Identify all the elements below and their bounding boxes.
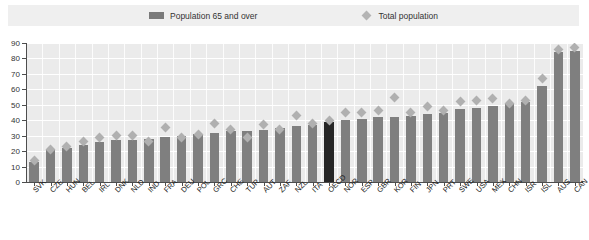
x-axis-labels: SVKCZEHUNBELIRLDNKNLDINDFRADEUPOLGRCCHET… — [0, 186, 587, 240]
bar — [308, 125, 318, 182]
bar — [455, 109, 465, 182]
y-tick — [22, 120, 26, 121]
y-tick-label: 20 — [11, 147, 20, 156]
bar — [390, 117, 400, 182]
y-tick — [22, 74, 26, 75]
bar — [79, 145, 89, 182]
y-tick-label: 50 — [11, 100, 20, 109]
bar — [111, 140, 121, 182]
bar — [177, 136, 187, 182]
data-point-marker — [259, 120, 269, 130]
y-tick — [22, 151, 26, 152]
y-tick — [22, 136, 26, 137]
bar — [373, 117, 383, 182]
y-tick — [22, 105, 26, 106]
diamond-marker-icon — [362, 11, 372, 21]
bar — [554, 52, 564, 182]
data-point-marker — [488, 94, 498, 104]
bar — [521, 102, 531, 182]
plot-wrapper: 0102030405060708090 SVKCZEHUNBELIRLDNKNL… — [0, 36, 587, 228]
y-tick-label: 60 — [11, 85, 20, 94]
y-tick-label: 40 — [11, 116, 20, 125]
data-point-marker — [390, 92, 400, 102]
y-tick-label: 80 — [11, 54, 20, 63]
bar — [488, 106, 498, 182]
y-tick-label: 30 — [11, 131, 20, 140]
data-point-marker — [455, 97, 465, 107]
bar — [210, 133, 220, 182]
y-tick-label: 10 — [11, 162, 20, 171]
bar — [226, 131, 236, 182]
legend-label-marker: Total population — [378, 11, 438, 21]
bar — [95, 142, 105, 182]
legend-item-total-population: Total population — [361, 11, 438, 21]
bar — [406, 116, 416, 182]
y-tick — [22, 167, 26, 168]
bar — [193, 134, 203, 182]
bar — [259, 130, 269, 183]
bar — [275, 128, 285, 182]
data-point-marker — [111, 131, 121, 141]
bar — [537, 86, 547, 182]
bar — [423, 114, 433, 182]
data-point-marker — [341, 108, 351, 118]
y-tick — [22, 43, 26, 44]
bar — [128, 140, 138, 182]
bar — [324, 122, 334, 182]
data-point-marker — [209, 118, 219, 128]
bar — [46, 150, 56, 182]
bar — [160, 137, 170, 182]
bar — [439, 113, 449, 183]
y-axis-labels: 0102030405060708090 — [0, 43, 22, 182]
y-tick — [22, 89, 26, 90]
legend-item-population-65-and-over: Population 65 and over — [149, 11, 257, 21]
bar-series — [26, 43, 583, 182]
y-tick-label: 70 — [11, 69, 20, 78]
y-tick — [22, 182, 26, 183]
data-point-marker — [537, 74, 547, 84]
bar — [570, 51, 580, 182]
y-axis-line — [26, 43, 27, 182]
data-point-marker — [291, 111, 301, 121]
data-point-marker — [160, 123, 170, 133]
chart-legend: Population 65 and over Total population — [8, 5, 579, 26]
bar — [505, 103, 515, 182]
bar — [472, 108, 482, 182]
bar — [292, 126, 302, 182]
data-point-marker — [373, 106, 383, 116]
y-tick — [22, 58, 26, 59]
legend-label-bar: Population 65 and over — [170, 11, 257, 21]
y-tick-label: 90 — [11, 39, 20, 48]
bar — [357, 119, 367, 182]
data-point-marker — [472, 95, 482, 105]
plot-area — [26, 43, 583, 182]
data-point-marker — [357, 108, 367, 118]
data-point-marker — [128, 131, 138, 141]
bar-swatch-icon — [149, 12, 164, 19]
data-point-marker — [422, 101, 432, 111]
bar — [62, 148, 72, 182]
data-point-marker — [95, 132, 105, 142]
